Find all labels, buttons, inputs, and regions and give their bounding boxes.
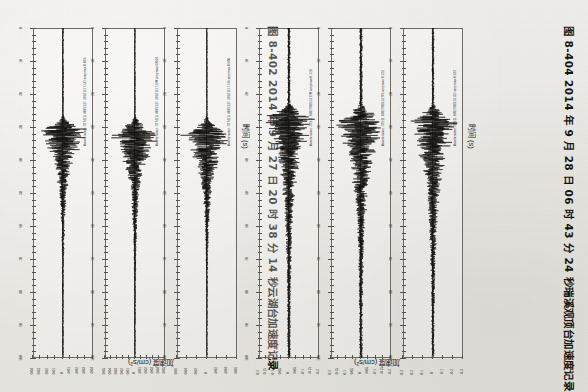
axis-tick-label: 0.04	[185, 368, 188, 374]
axis-tick-label: 0	[390, 27, 393, 29]
axis-tick-label: 0.1	[272, 370, 275, 374]
axis-tick-label: 90	[92, 323, 95, 327]
time-axis-ticks	[402, 28, 407, 358]
axis-tick-label: -0.04	[91, 367, 94, 374]
axis-tick-label: -0.2	[317, 369, 320, 375]
axis-tick-label: 90	[390, 323, 393, 327]
axis-tick-label: 70	[390, 257, 393, 261]
axis-tick-label: 80	[164, 290, 167, 294]
axis-tick-label: 0.05	[103, 368, 106, 374]
axis-tick-label: -0.1	[302, 369, 305, 375]
record-panel: 0102030405060708090100-0.06-0.04-0.0200.…	[177, 28, 237, 358]
axis-tick-label: 100	[246, 355, 249, 360]
time-axis-labels: 0102030405060708090100	[92, 28, 104, 358]
axis-tick-label: 0	[431, 372, 434, 374]
axis-tick-label: 0	[20, 27, 23, 29]
amplitude-axis-labels: -0.06-0.04-0.0200.020.040.06	[177, 360, 237, 374]
axis-tick-label: 0.03	[115, 368, 118, 374]
axis-tick-label: -0.02	[215, 367, 218, 374]
axis-tick-label: 60	[92, 224, 95, 228]
time-axis-labels: 0102030405060708090100	[20, 28, 32, 358]
scanned-page: 0102030405060708090100-0.04-0.03-0.02-0.…	[0, 0, 588, 392]
axis-tick-label: 100	[318, 355, 321, 360]
axis-tick-label: 80	[390, 290, 393, 294]
axis-tick-label: 10	[92, 59, 95, 63]
time-axis-ticks	[176, 28, 181, 358]
axis-tick-label: -0.05	[295, 367, 298, 374]
axis-tick-label: 80	[246, 290, 249, 294]
axis-tick-label: 0.06	[175, 368, 178, 374]
channel-annotation: Acceleration 7DS11 6082980123 UD ampmax …	[453, 70, 457, 146]
axis-tick-label: 100	[20, 355, 23, 360]
axis-tick-label: 0	[287, 372, 290, 374]
axis-tick-label: 30	[318, 125, 321, 129]
axis-tick-label: 40	[318, 158, 321, 162]
record-panel: 0102030405060708090100-0.3-0.2-0.100.10.…	[403, 28, 463, 358]
axis-tick-label: 0	[133, 372, 136, 374]
axis-tick-label: 0.02	[121, 368, 124, 374]
axis-tick-label: 60	[318, 224, 321, 228]
axis-tick-label: 60	[164, 224, 167, 228]
axis-tick-label: 60	[246, 224, 249, 228]
axis-tick-label: 0.2	[257, 370, 260, 374]
time-axis-ticks	[104, 28, 109, 358]
axis-tick-label: 30	[20, 125, 23, 129]
record-panel: 0102030405060708090100-0.2-0.15-0.1-0.05…	[331, 28, 391, 358]
axis-tick-label: -0.1	[441, 369, 444, 375]
axis-tick-label: 80	[318, 290, 321, 294]
axis-tick-label: 70	[92, 257, 95, 261]
axis-tick-label: 40	[164, 158, 167, 162]
axis-tick-label: -0.3	[461, 369, 464, 375]
amplitude-axis-ticks	[259, 354, 319, 359]
axis-tick-label: 0.3	[401, 370, 404, 374]
axis-tick-label: 0.1	[344, 370, 347, 374]
axis-tick-label: 50	[246, 191, 249, 195]
time-axis-ticks	[330, 28, 335, 358]
time-axis-ticks	[32, 28, 37, 358]
axis-tick-label: 10	[318, 59, 321, 63]
axis-tick-label: 40	[246, 158, 249, 162]
axis-tick-label: 40	[390, 158, 393, 162]
axis-tick-label: 10	[246, 59, 249, 63]
channel-annotation: Acceleration 7DT4(1) 4082137 20141127 NS…	[227, 58, 231, 146]
axis-tick-label: 0	[164, 27, 167, 29]
axis-tick-label: 10	[20, 59, 23, 63]
axis-tick-label: -0.04	[225, 367, 228, 374]
axis-tick-label: 70	[318, 257, 321, 261]
axis-tick-label: 0.02	[46, 368, 49, 374]
y-axis-title: 加速度 (cm/s²)	[128, 358, 174, 369]
record-panel: 0102030405060708090100-0.04-0.03-0.02-0.…	[33, 28, 93, 358]
axis-tick-label: 80	[92, 290, 95, 294]
axis-tick-label: 60	[390, 224, 393, 228]
axis-tick-label: 0	[205, 372, 208, 374]
axis-tick-label: -0.03	[84, 367, 87, 374]
amplitude-axis-labels: -0.3-0.2-0.100.10.20.3	[403, 360, 463, 374]
axis-tick-label: 40	[20, 158, 23, 162]
axis-tick-label: 50	[318, 191, 321, 195]
axis-tick-label: 60	[20, 224, 23, 228]
axis-tick-label: 50	[164, 191, 167, 195]
amplitude-axis-ticks	[403, 354, 463, 359]
axis-tick-label: 0	[318, 27, 321, 29]
axis-tick-label: 0.1	[421, 370, 424, 374]
axis-tick-label: 20	[246, 92, 249, 96]
axis-tick-label: 70	[164, 257, 167, 261]
time-axis-labels: 0102030405060708090100	[246, 28, 258, 358]
axis-tick-label: -0.2	[451, 369, 454, 375]
axis-tick-label: 0	[92, 27, 95, 29]
amplitude-axis-ticks	[177, 354, 237, 359]
time-axis-ticks	[258, 28, 263, 358]
axis-tick-label: 50	[20, 191, 23, 195]
axis-tick-label: 30	[92, 125, 95, 129]
axis-tick-label: 90	[318, 323, 321, 327]
axis-tick-label: 30	[164, 125, 167, 129]
axis-tick-label: 20	[390, 92, 393, 96]
axis-tick-label: 0.15	[337, 368, 340, 374]
channel-annotation: Acceleration 7DS11 6082980123 EW ampmax …	[309, 69, 313, 146]
axis-tick-label: -0.02	[76, 367, 79, 374]
y-axis-title: 加速度 (cm/s²)	[354, 358, 400, 369]
axis-tick-label: 0.15	[265, 368, 268, 374]
amplitude-axis-labels: -0.04-0.03-0.02-0.0100.010.020.030.04	[33, 360, 93, 374]
axis-tick-label: -0.01	[69, 367, 72, 374]
axis-tick-label: -0.06	[235, 367, 238, 374]
